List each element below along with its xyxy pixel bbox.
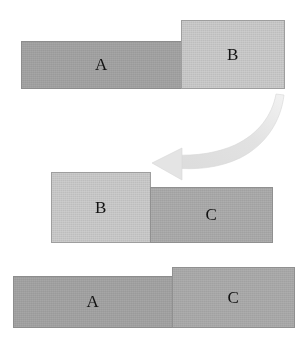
block-a-bottom: A [13,276,173,328]
block-label: A [95,55,108,75]
block-label: A [87,292,100,312]
block-label: B [95,198,107,218]
block-label: B [227,45,239,65]
block-label: C [206,205,218,225]
block-c-bottom: C [172,267,295,328]
block-label: C [228,288,240,308]
block-c-middle: C [150,187,273,243]
arrow-body [175,94,284,169]
block-b-top: B [181,20,285,89]
block-a-top: A [21,41,182,89]
arrow-head [152,148,182,180]
diagram-canvas: A B B C A C [0,0,308,342]
block-b-middle: B [51,172,151,243]
